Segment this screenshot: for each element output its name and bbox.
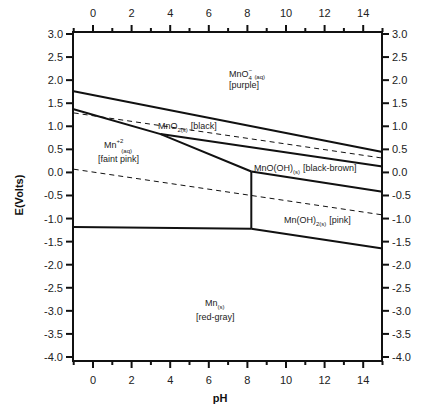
y-tick-label-left: -2.5: [44, 282, 63, 294]
y-tick-label-right: 1.5: [392, 97, 407, 109]
y-tick-label-left: 0.5: [48, 143, 63, 155]
y-tick-label-right: -3.0: [392, 305, 411, 317]
x-tick-label-bottom: 2: [129, 374, 135, 386]
y-tick-label-right: -3.5: [392, 328, 411, 340]
y-tick-label-right: -2.0: [392, 259, 411, 271]
y-tick-label-right: 2.5: [392, 51, 407, 63]
y-tick-label-right: 0.5: [392, 143, 407, 155]
y-tick-label-left: -4.0: [44, 351, 63, 363]
x-tick-label-top: 4: [167, 7, 173, 19]
y-tick-label-left: -0.5: [44, 189, 63, 201]
y-tick-label-left: 2.5: [48, 51, 63, 63]
region-note-mn2: [faint pink]: [98, 154, 139, 164]
x-tick-label-bottom: 14: [357, 374, 369, 386]
y-tick-label-right: -1.0: [392, 213, 411, 225]
y-tick-label-left: 3.0: [48, 28, 63, 40]
y-tick-label-left: 1.5: [48, 97, 63, 109]
x-tick-label-top: 10: [280, 7, 292, 19]
x-tick-label-bottom: 8: [244, 374, 250, 386]
x-axis-title: pH: [213, 392, 228, 404]
region-note-mno4: [purple]: [229, 80, 259, 90]
x-tick-label-bottom: 4: [167, 374, 173, 386]
y-tick-label-right: -4.0: [392, 351, 411, 363]
y-tick-label-right: -1.5: [392, 236, 411, 248]
y-tick-label-right: 2.0: [392, 74, 407, 86]
y-tick-label-left: -3.5: [44, 328, 63, 340]
x-tick-label-bottom: 10: [280, 374, 292, 386]
y-axis-title: E(Volts): [13, 174, 25, 215]
y-tick-label-right: -0.5: [392, 189, 411, 201]
y-tick-label-left: 1.0: [48, 120, 63, 132]
y-tick-label-right: 0.0: [392, 166, 407, 178]
x-tick-label-bottom: 0: [90, 374, 96, 386]
y-tick-label-left: -1.0: [44, 213, 63, 225]
region-note-mn: [red-gray]: [196, 312, 235, 322]
y-tick-label-left: 0.0: [48, 166, 63, 178]
x-tick-label-top: 6: [206, 7, 212, 19]
x-tick-label-bottom: 12: [318, 374, 330, 386]
x-tick-label-top: 0: [90, 7, 96, 19]
x-tick-label-top: 12: [318, 7, 330, 19]
y-tick-label-left: -3.0: [44, 305, 63, 317]
x-tick-label-top: 8: [244, 7, 250, 19]
x-tick-label-bottom: 6: [206, 374, 212, 386]
y-tick-label-right: 3.0: [392, 28, 407, 40]
x-tick-label-top: 2: [129, 7, 135, 19]
y-tick-label-right: -2.5: [392, 282, 411, 294]
y-tick-label-left: -1.5: [44, 236, 63, 248]
pourbaix-diagram: 02468101214 02468101214 3.02.52.01.51.00…: [0, 0, 428, 409]
x-tick-label-top: 14: [357, 7, 369, 19]
chart-background: [0, 0, 428, 409]
y-tick-label-right: 1.0: [392, 120, 407, 132]
y-tick-label-left: -2.0: [44, 259, 63, 271]
y-tick-label-left: 2.0: [48, 74, 63, 86]
